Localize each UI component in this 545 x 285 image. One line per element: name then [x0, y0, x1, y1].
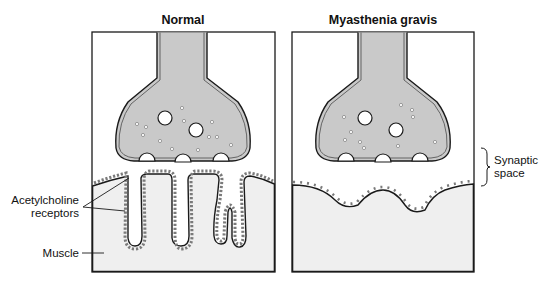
panel-myasthenia — [292, 32, 474, 272]
label-space: space — [494, 167, 525, 180]
label-receptors: receptors — [31, 207, 79, 220]
diagram-svg — [0, 0, 545, 285]
neuromuscular-junction-figure: Normal Myasthenia gravis — [0, 0, 545, 285]
muscle-myasthenia — [293, 184, 474, 271]
label-muscle: Muscle — [43, 247, 79, 260]
synaptic-space-brace — [481, 148, 490, 186]
label-acetylcholine: Acetylcholine — [11, 194, 79, 207]
panel-normal — [92, 32, 275, 272]
label-synaptic: Synaptic — [494, 154, 538, 167]
